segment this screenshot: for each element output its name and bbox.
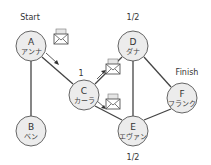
node-d: D ダナ: [118, 31, 148, 61]
node-f: F フランク: [167, 83, 197, 113]
edges: [31, 57, 171, 120]
envelope-icon: [54, 29, 68, 44]
node-e-letter: E: [130, 122, 136, 132]
envelope-icon: [106, 94, 120, 109]
node-b: B ベン: [16, 116, 46, 146]
arrow-a-to-c: [46, 53, 59, 65]
e-value-label: 1/2: [127, 153, 140, 162]
node-c-name: カーラ: [74, 97, 95, 105]
node-a-name: アンナ: [21, 48, 42, 56]
node-b-letter: B: [28, 122, 34, 132]
finish-label: Finish: [176, 68, 199, 77]
message-graph-diagram: A アンナ B ベン C カーラ D ダナ E エヴァン F フランク Star…: [0, 0, 211, 165]
node-e: E エヴァン: [118, 116, 148, 146]
node-d-name: ダナ: [126, 47, 140, 56]
c-value-label: 1: [78, 69, 83, 78]
edge-a-c: [42, 57, 73, 84]
node-f-letter: F: [179, 89, 184, 99]
start-label: Start: [20, 13, 40, 22]
node-c-letter: C: [81, 86, 87, 96]
node-a-letter: A: [28, 37, 35, 47]
node-e-name: エヴァン: [119, 132, 147, 141]
envelope-icon: [106, 59, 120, 74]
d-value-label: 1/2: [127, 13, 140, 22]
node-f-name: フランク: [168, 100, 196, 108]
node-c: C カーラ: [69, 80, 99, 110]
node-b-name: ベン: [24, 133, 38, 141]
node-a: A アンナ: [16, 31, 46, 61]
edge-d-f: [144, 57, 171, 87]
edge-e-f: [144, 109, 171, 120]
node-d-letter: D: [130, 37, 137, 47]
